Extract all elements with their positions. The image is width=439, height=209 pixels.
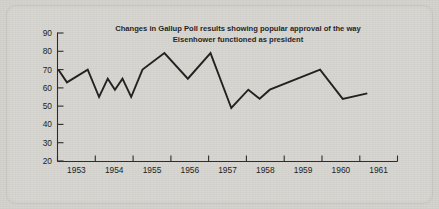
x-tick-label: 1958: [256, 165, 275, 175]
chart-title-line-1: Changes in Gallup Poll results showing p…: [115, 24, 361, 33]
x-tick-label: 1957: [218, 165, 237, 175]
y-tick-label: 30: [43, 138, 53, 148]
x-tick-label: 1955: [143, 165, 162, 175]
chart-title-line-2: Eisenhower functioned as president: [173, 35, 304, 44]
y-axis-labels: 90 80 70 60 50 40 30 20: [43, 28, 53, 166]
y-tick-label: 90: [43, 28, 53, 38]
x-tick-label: 1953: [67, 165, 86, 175]
x-tick-label: 1959: [294, 165, 313, 175]
y-tick-label: 40: [43, 119, 53, 129]
y-tick-label: 60: [43, 83, 53, 93]
x-tick-label: 1961: [369, 165, 388, 175]
y-tick-label: 70: [43, 65, 53, 75]
x-tick-label: 1960: [332, 165, 351, 175]
x-tick-label: 1954: [105, 165, 124, 175]
chart-figure: Changes in Gallup Poll results showing p…: [0, 0, 439, 209]
line-chart-plot: Changes in Gallup Poll results showing p…: [0, 0, 439, 209]
x-axis-ticks: [58, 156, 398, 162]
x-tick-label: 1956: [180, 165, 199, 175]
y-tick-label: 80: [43, 46, 53, 56]
y-axis-ticks: [58, 33, 64, 161]
x-axis-labels: 1953 1954 1955 1956 1957 1958 1959 1960 …: [67, 165, 388, 175]
y-tick-label: 50: [43, 101, 53, 111]
approval-rating-line: [58, 53, 367, 108]
y-tick-label: 20: [43, 156, 53, 166]
